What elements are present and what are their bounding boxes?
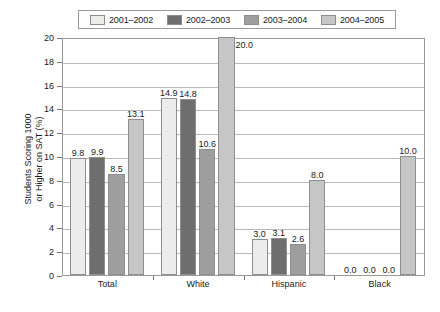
bar[interactable]	[252, 239, 268, 275]
bar-value-label: 8.5	[110, 165, 123, 174]
bar-slot: 8.5	[108, 39, 124, 275]
y-tick-mark	[57, 276, 62, 277]
legend-label: 2004–2005	[340, 15, 384, 25]
bar-slot: 8.0	[309, 39, 325, 275]
y-tick-label: 14	[44, 105, 54, 114]
bar-value-label: 14.9	[160, 89, 178, 98]
bar-value-label: 0.0	[344, 266, 357, 275]
bar[interactable]	[290, 244, 306, 275]
y-tick-label: 10	[44, 153, 54, 162]
bar-slot: 14.8	[180, 39, 196, 275]
legend-item[interactable]: 2002–2003	[167, 15, 230, 25]
bar-slot: 3.0	[252, 39, 268, 275]
legend-item[interactable]: 2001–2002	[90, 15, 153, 25]
bar-value-label: 0.0	[363, 266, 376, 275]
bar[interactable]	[128, 119, 144, 275]
bar-slot: 9.8	[70, 39, 86, 275]
x-tick-mark	[334, 276, 335, 280]
bar-slot: 20.0	[218, 39, 234, 275]
bar[interactable]	[70, 158, 86, 275]
legend-swatch-icon	[167, 15, 182, 25]
bar-slot: 9.9	[89, 39, 105, 275]
bar-value-label: 10.0	[399, 147, 417, 156]
legend-item[interactable]: 2003–2004	[244, 15, 307, 25]
x-tick-mark	[244, 276, 245, 280]
y-tick-label: 8	[49, 176, 54, 185]
bar[interactable]	[218, 37, 234, 275]
bar-value-label: 8.0	[311, 171, 324, 180]
bar-slot: 2.6	[290, 39, 306, 275]
bar-slot: 10.0	[400, 39, 416, 275]
x-axis-category-label: Black	[369, 279, 391, 289]
bar-slot: 14.9	[161, 39, 177, 275]
x-tick-mark	[153, 276, 154, 280]
plot-area: 9.89.98.513.114.914.810.620.03.03.12.68.…	[62, 38, 425, 276]
y-tick-label: 6	[49, 200, 54, 209]
x-axis-category-label: White	[187, 279, 210, 289]
y-axis-ticks: 02468101214161820	[0, 38, 62, 276]
bar-value-label: 3.1	[273, 229, 286, 238]
legend-swatch-icon	[90, 15, 105, 25]
bar[interactable]	[400, 156, 416, 275]
bars-layer: 9.89.98.513.114.914.810.620.03.03.12.68.…	[63, 39, 424, 275]
y-tick-label: 20	[44, 34, 54, 43]
legend-label: 2002–2003	[186, 15, 230, 25]
bar[interactable]	[108, 174, 124, 275]
legend-item[interactable]: 2004–2005	[321, 15, 384, 25]
bar[interactable]	[199, 149, 215, 275]
y-tick-label: 2	[49, 248, 54, 257]
bar-chart: 2001–20022002–20032003–20042004–2005 Stu…	[0, 0, 440, 312]
legend-label: 2001–2002	[109, 15, 153, 25]
bar-slot: 10.6	[199, 39, 215, 275]
chart-legend: 2001–20022002–20032003–20042004–2005	[78, 10, 396, 29]
bar-value-label: 0.0	[382, 266, 395, 275]
bar-value-label: 10.6	[198, 140, 216, 149]
bar-value-label: 14.8	[179, 90, 197, 99]
bar[interactable]	[89, 157, 105, 275]
bar-value-label: 13.1	[127, 110, 145, 119]
bar-slot: 0.0	[361, 39, 377, 275]
bar-value-label: 9.8	[72, 149, 85, 158]
y-tick-label: 12	[44, 129, 54, 138]
bar-value-label: 9.9	[91, 148, 104, 157]
bar-slot: 0.0	[342, 39, 358, 275]
bar[interactable]	[180, 99, 196, 275]
bar-value-label: 2.6	[292, 235, 305, 244]
bar-slot: 3.1	[271, 39, 287, 275]
y-tick-label: 4	[49, 224, 54, 233]
bar-value-label: 3.0	[253, 230, 266, 239]
bar[interactable]	[309, 180, 325, 275]
x-axis-labels: TotalWhiteHispanicBlack	[62, 279, 425, 295]
bar[interactable]	[161, 98, 177, 275]
bar-slot: 13.1	[128, 39, 144, 275]
x-axis-category-label: Total	[98, 279, 117, 289]
legend-label: 2003–2004	[263, 15, 307, 25]
legend-swatch-icon	[244, 15, 259, 25]
y-tick-label: 16	[44, 81, 54, 90]
y-tick-label: 18	[44, 57, 54, 66]
legend-swatch-icon	[321, 15, 336, 25]
x-axis-category-label: Hispanic	[272, 279, 307, 289]
bar-value-label: 20.0	[236, 41, 254, 50]
bar[interactable]	[271, 238, 287, 275]
y-tick-label: 0	[49, 272, 54, 281]
bar-slot: 0.0	[381, 39, 397, 275]
